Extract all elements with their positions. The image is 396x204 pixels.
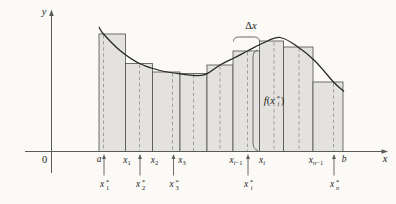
riemann-rectangle — [260, 41, 284, 152]
riemann-rectangle — [207, 65, 233, 152]
figure-canvas — [0, 0, 396, 204]
delta-x-brace — [234, 37, 260, 42]
sample-arrowhead — [172, 154, 176, 159]
x-axis-arrowhead — [382, 149, 389, 154]
riemann-rectangle — [126, 64, 153, 152]
sample-arrowhead — [138, 154, 142, 159]
riemann-rectangle — [233, 51, 260, 152]
riemann-rectangle — [153, 72, 181, 152]
sample-arrowhead — [102, 154, 106, 159]
sample-arrowhead — [246, 154, 250, 159]
y-axis-arrowhead — [49, 10, 54, 17]
sample-arrowhead — [332, 154, 336, 159]
riemann-sum-figure: yx0ax1x2x3xi−1xixn−1bx*1x*2x*3x*ix*nΔxf(… — [0, 0, 396, 204]
riemann-rectangle — [284, 47, 314, 152]
riemann-rectangle — [313, 82, 343, 152]
